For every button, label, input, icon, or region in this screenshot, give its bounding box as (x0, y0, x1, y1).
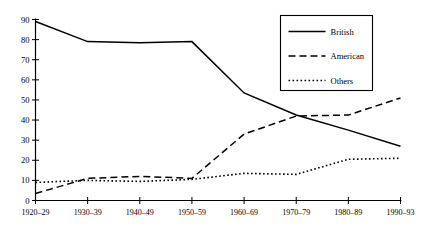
x-tick-label: 1930–39 (74, 208, 102, 217)
y-tick-label: 30 (21, 135, 30, 145)
y-axis: 0102030405060708090 (21, 15, 39, 206)
chart-legend: BritishAmericanOthers (281, 16, 373, 91)
x-tick-label: 1940–49 (126, 208, 154, 217)
x-axis: 1920–291930–391940–491950–591960–691970–… (22, 197, 415, 217)
legend-label-american: American (331, 51, 365, 61)
legend-label-others: Others (331, 76, 354, 86)
y-tick-label: 90 (21, 15, 30, 25)
y-tick-label: 40 (21, 115, 30, 125)
x-tick-label: 1920–29 (22, 208, 50, 217)
series-line-american (36, 98, 401, 194)
y-tick-label: 60 (21, 75, 30, 85)
y-tick-label: 10 (21, 175, 30, 185)
y-tick-label: 70 (21, 55, 30, 65)
y-tick-label: 80 (21, 35, 30, 45)
x-tick-label: 1990–93 (387, 208, 415, 217)
y-tick-label: 0 (25, 196, 29, 206)
line-chart: 0102030405060708090 1920–291930–391940–4… (0, 0, 425, 229)
x-tick-label: 1970–79 (282, 208, 310, 217)
legend-label-british: British (331, 27, 355, 37)
y-tick-label: 20 (21, 155, 30, 165)
x-tick-label: 1960–69 (230, 208, 258, 217)
x-tick-label: 1950–59 (178, 208, 206, 217)
x-tick-label: 1980–89 (334, 208, 362, 217)
y-tick-label: 50 (21, 95, 30, 105)
chart-canvas: 0102030405060708090 1920–291930–391940–4… (0, 0, 425, 229)
